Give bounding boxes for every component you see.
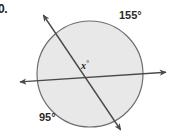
angle-label-bottom-left: 95° — [39, 111, 56, 123]
problem-number: 0. — [0, 2, 7, 16]
variable-angle-label: x° — [81, 59, 89, 71]
angle-label-top-right: 155° — [119, 9, 142, 21]
degree-symbol: ° — [86, 59, 89, 67]
